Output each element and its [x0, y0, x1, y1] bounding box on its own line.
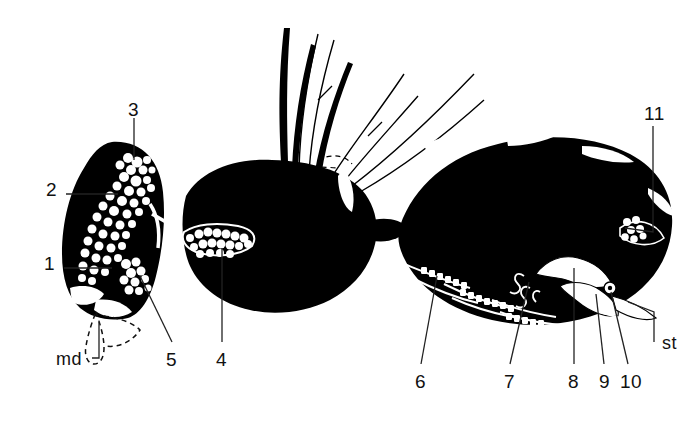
label-9: 9 [599, 372, 610, 391]
label-7: 7 [504, 372, 515, 391]
label-10: 10 [620, 372, 642, 391]
label-3: 3 [128, 100, 139, 119]
label-st: st [662, 334, 677, 352]
ant-anatomy-figure: 1 2 3 4 5 6 7 8 9 10 11 md st [0, 0, 698, 425]
label-1: 1 [44, 254, 55, 273]
label-4: 4 [216, 350, 227, 369]
label-2: 2 [46, 180, 57, 199]
small-gland-10-core [608, 286, 612, 290]
label-11: 11 [644, 104, 665, 123]
label-5: 5 [166, 350, 177, 369]
ant-sagittal-section-drawing [0, 0, 698, 425]
label-8: 8 [568, 372, 579, 391]
label-6: 6 [415, 372, 426, 391]
label-md: md [56, 350, 82, 368]
